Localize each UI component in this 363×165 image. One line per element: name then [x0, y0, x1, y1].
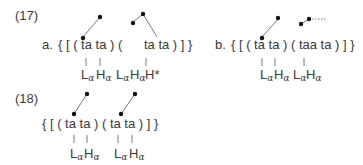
tone-dot-17a-low2: [131, 21, 135, 25]
tone-dot-17a-high2: [141, 12, 145, 16]
tone-dot-17b-high2: [307, 17, 311, 21]
pitch-line-17a-fall: [143, 14, 157, 37]
tone-dot-17b-high: [276, 16, 280, 20]
pitch-line-18-rise1: [74, 94, 87, 114]
tone-dot-18-high2: [133, 92, 137, 96]
tone-dot-17a-high: [98, 15, 102, 19]
tone-dot-17a-low: [81, 36, 85, 40]
tone-dot-18-high1: [85, 92, 89, 96]
tone-dot-17b-low2: [299, 22, 303, 26]
pitch-line-18-rise2: [121, 94, 135, 114]
tone-dot-18-low1: [72, 112, 76, 116]
tone-dot-17b-low: [260, 36, 264, 40]
pitch-line-17a-rise: [83, 17, 100, 37]
pitch-line-17b-rise: [262, 18, 279, 37]
pitch-track-overlay: [0, 0, 363, 165]
tone-dot-18-low2: [119, 112, 123, 116]
